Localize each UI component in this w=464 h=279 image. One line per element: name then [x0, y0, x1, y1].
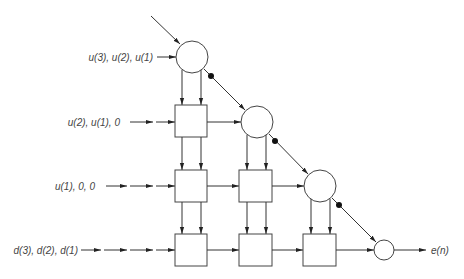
- final-multiplier-cell: [374, 240, 394, 260]
- boundary-cell-3: [304, 170, 336, 202]
- systolic-array-diagram: u(3), u(2), u(1) u(2), u(1), 0 u(1), 0, …: [0, 0, 464, 279]
- boundary-cell-1: [176, 41, 208, 73]
- delay-element-icon: [336, 202, 342, 208]
- internal-cell-4-2: [239, 234, 272, 266]
- internal-cell-4-1: [175, 234, 207, 266]
- input-label-row-3: u(1), 0, 0: [55, 181, 95, 192]
- internal-cell-3-2: [239, 170, 272, 202]
- boundary-cell-2: [241, 106, 273, 138]
- internal-cell-4-3: [303, 234, 336, 266]
- input-label-row-1: u(3), u(2), u(1): [89, 52, 153, 63]
- diagonal-input-arrow: [151, 16, 180, 44]
- internal-cell-2-1: [175, 105, 207, 137]
- input-label-row-4: d(3), d(2), d(1): [14, 245, 78, 256]
- internal-cell-3-1: [175, 170, 207, 202]
- input-label-row-2: u(2), u(1), 0: [68, 117, 121, 128]
- delay-element-icon: [272, 138, 278, 144]
- output-label: e(n): [431, 245, 449, 256]
- delay-element-icon: [208, 73, 214, 79]
